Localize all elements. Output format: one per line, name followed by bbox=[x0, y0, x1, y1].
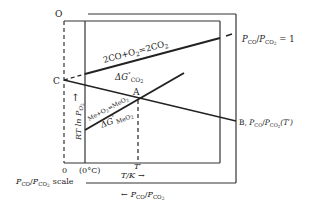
label-o: O bbox=[55, 9, 62, 19]
x-axis-label: T/K→ bbox=[121, 171, 145, 180]
co-line-dashed-end bbox=[226, 34, 232, 36]
x-tick-zero: 0 bbox=[62, 166, 67, 175]
pco-direction-label: ←PCO/PCO2 bbox=[121, 190, 165, 201]
arrow-up-icon: ↑ bbox=[71, 92, 79, 103]
pco-scale-label: PCO/PCO2scale bbox=[15, 177, 74, 188]
x-tick-tprime: T′ bbox=[134, 162, 141, 171]
ratio-equals-one-label: PCO/PCO2 = 1 bbox=[241, 34, 295, 46]
label-c: C bbox=[53, 76, 60, 86]
svg-text:2CO+O2=2CO2: 2CO+O2=2CO2 bbox=[102, 38, 169, 66]
svg-text:RT ln PO2: RT ln PO2 bbox=[74, 103, 85, 141]
y-axis-label: RT ln PO2 bbox=[74, 103, 85, 141]
ellingham-diagram: O C A 2CO+O2=2CO2 ΔG°CO2 Me+O2=MeO2 ΔG°M… bbox=[0, 0, 315, 210]
label-a: A bbox=[132, 87, 140, 97]
x-tick-zero-celsius: (0°C) bbox=[79, 166, 100, 175]
point-b-label: B, PCO/PCO2(T′) bbox=[239, 118, 293, 129]
reaction-co-label: 2CO+O2=2CO2 bbox=[102, 38, 169, 66]
co-line-dashed-start bbox=[64, 74, 85, 80]
delta-g-co2-label: ΔG°CO2 bbox=[114, 71, 143, 84]
